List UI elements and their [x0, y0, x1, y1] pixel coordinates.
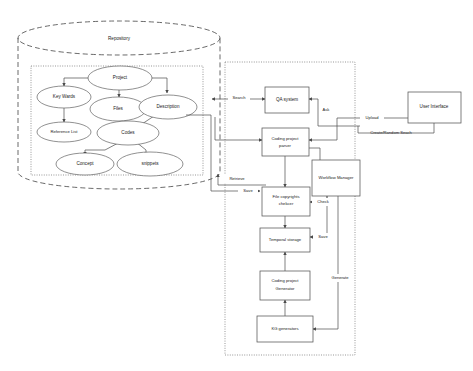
edge-bus-to-parser — [215, 117, 262, 140]
node-coding-project-generator-label-1: Coding project — [271, 278, 299, 283]
node-codes[interactable]: Codes — [97, 121, 159, 145]
node-coding-project-parser-label-2: parser — [279, 143, 291, 148]
node-user-interface-label: User Interface — [420, 104, 449, 109]
node-coding-project-generator[interactable]: Coding project Generator — [260, 271, 310, 300]
node-files-label: Files — [113, 106, 123, 111]
edge-label-save-left: Save — [243, 188, 253, 193]
node-coding-project-parser-label-1: Coding project — [271, 136, 299, 141]
edge-label-generate: Generate — [331, 275, 349, 280]
node-workflow-manager[interactable]: Workflow Manager — [312, 160, 360, 196]
node-file-copyrights-checker-label-1: File copyrights — [273, 194, 300, 199]
edge-generate — [313, 196, 338, 329]
architecture-diagram: Repository Project Key — [0, 0, 473, 371]
node-snippets[interactable]: snippets — [117, 152, 183, 176]
node-description[interactable]: Description — [139, 95, 197, 119]
node-snippets-label: snippets — [141, 161, 159, 166]
node-coding-project-generator-label-2: Generator — [276, 286, 295, 291]
edge-label-check: Check — [317, 199, 330, 204]
node-concept[interactable]: Concept — [56, 153, 114, 175]
edge-label-upload: Upload — [366, 115, 380, 120]
node-project[interactable]: Project — [88, 66, 152, 90]
node-concept-label: Concept — [76, 161, 94, 166]
node-kg-generators[interactable]: KG generators — [257, 316, 313, 342]
node-description-label: Description — [157, 104, 180, 109]
node-qa-system[interactable]: QA system — [265, 87, 309, 113]
node-file-copyrights-checker-label-2: chekcer — [279, 201, 294, 206]
node-codes-label: Codes — [121, 130, 135, 135]
node-files[interactable]: Files — [90, 97, 146, 121]
edge-label-retrieve: Retrieve — [229, 176, 245, 181]
node-reference-list[interactable]: Reference List — [37, 122, 91, 142]
node-key-words-label: Key Wards — [53, 94, 76, 99]
repository-label: Repository — [108, 36, 131, 41]
node-coding-project-parser[interactable]: Coding project parser — [262, 128, 309, 156]
edge-label-ask: Ask — [323, 107, 331, 112]
node-project-label: Project — [113, 75, 128, 80]
node-file-copyrights-checker[interactable]: File copyrights chekcer — [262, 187, 310, 216]
node-key-words[interactable]: Key Wards — [37, 86, 91, 108]
edge-label-create-random-search: Create/Random Seach — [370, 130, 412, 135]
node-reference-list-label: Reference List — [51, 129, 79, 134]
node-temporal-storage-label: Temporal storage — [269, 237, 302, 242]
edge-label-save-right: Save — [318, 234, 328, 239]
node-workflow-manager-label: Workflow Manager — [319, 175, 354, 180]
node-user-interface[interactable]: User Interface — [408, 92, 461, 123]
diagram-canvas: Repository Project Key — [0, 0, 473, 371]
node-qa-system-label: QA system — [276, 97, 298, 102]
edge-repo-outflow — [186, 115, 211, 132]
node-kg-generators-label: KG generators — [271, 326, 298, 331]
edge-label-search: Search — [233, 95, 247, 100]
node-temporal-storage[interactable]: Temporal storage — [260, 228, 310, 252]
